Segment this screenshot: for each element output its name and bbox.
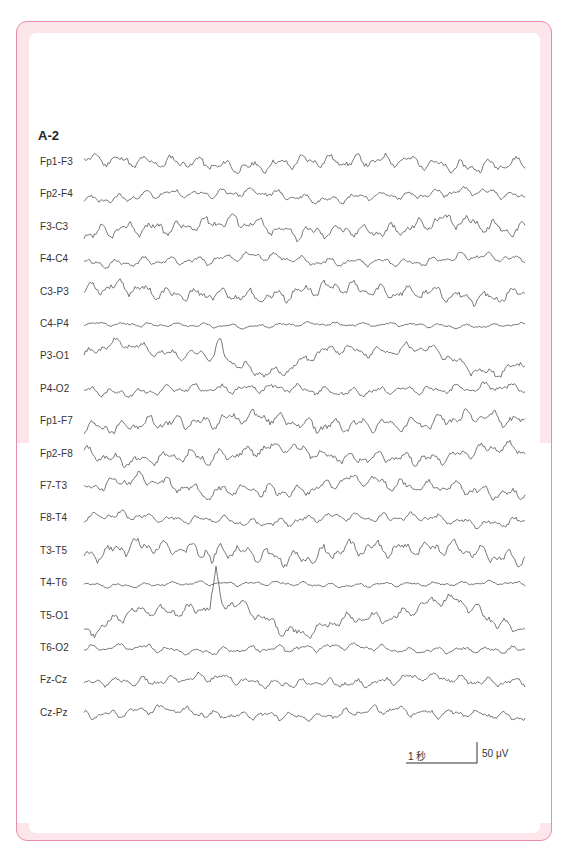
eeg-trace — [84, 382, 525, 398]
eeg-trace — [84, 566, 525, 638]
eeg-trace — [84, 252, 525, 269]
eeg-trace — [84, 214, 525, 242]
amplitude-scale-label: 50 μV — [482, 748, 508, 759]
eeg-trace — [84, 279, 525, 307]
eeg-trace — [84, 409, 525, 434]
eeg-trace — [84, 186, 525, 204]
eeg-trace — [84, 153, 525, 174]
eeg-trace — [84, 338, 525, 377]
eeg-trace — [84, 643, 525, 655]
eeg-trace — [84, 580, 525, 588]
eeg-trace — [84, 471, 525, 500]
eeg-trace — [84, 672, 525, 689]
eeg-trace — [84, 510, 525, 529]
eeg-trace — [84, 538, 525, 567]
eeg-trace — [84, 705, 525, 722]
eeg-trace — [84, 440, 525, 468]
eeg-trace — [84, 322, 525, 330]
time-scale-label: 1 秒 — [408, 748, 426, 763]
